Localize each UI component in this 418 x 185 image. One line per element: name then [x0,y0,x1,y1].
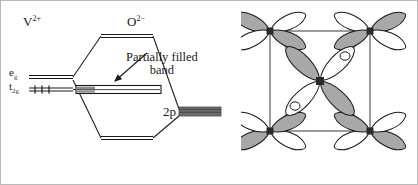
figure-container: V2+ O2− eg t2g 2p Partially filled band [0,0,418,185]
overlap-node-lower-left [290,102,300,110]
anion-label: O2− [127,15,145,28]
mo-diagram-svg [1,1,241,185]
partially-filled-band-annotation: Partially filled band [126,51,198,76]
t2g-electrons [35,86,49,94]
eg-level [29,76,73,79]
mo-band-diagram-panel: V2+ O2− eg t2g 2p Partially filled band [1,1,241,185]
antibonding-level [101,35,153,38]
overlap-node-upper-right [340,52,350,60]
t2g-level-label: t2g [9,81,19,92]
bonding-level [101,137,153,140]
eg-level-label: eg [9,67,17,78]
oxygen-2p-level [179,107,221,116]
annotation-line-2: band [126,64,198,77]
d-orbital-lattice-panel [241,1,418,185]
oxygen-2p-label: 2p [163,105,176,118]
partially-filled-band [76,86,161,94]
lattice-diagram-svg [241,1,418,185]
cation-label: V2+ [23,15,41,28]
annotation-line-1: Partially filled [126,50,198,64]
t2g-level [29,86,73,94]
